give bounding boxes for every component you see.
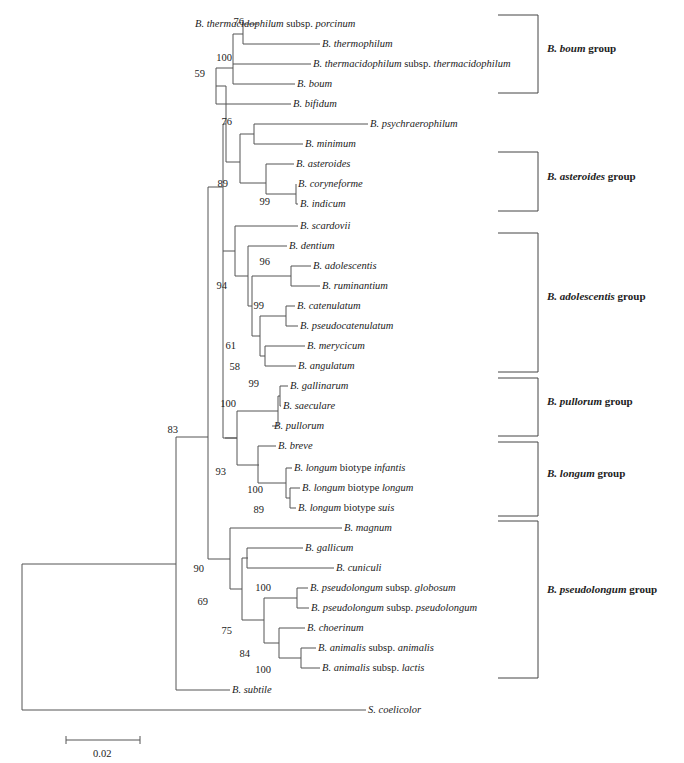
leaf-label-adolescentis: B. adolescentis — [313, 260, 377, 272]
leaf-label-coelicolor: S. coelicolor — [368, 704, 421, 716]
leaf-label-subtile: B. subtile — [232, 684, 272, 696]
bootstrap-value: 100 — [212, 398, 236, 410]
bootstrap-value: 59 — [181, 68, 205, 80]
leaf-label-boum: B. boum — [297, 78, 332, 90]
leaf-label-scardovii: B. scardovii — [300, 220, 350, 232]
bootstrap-value: 90 — [180, 563, 204, 575]
leaf-label-cuniculi: B. cuniculi — [336, 562, 382, 574]
leaf-label-coryneforme: B. coryneforme — [298, 178, 363, 190]
leaf-label-minimum: B. minimum — [305, 138, 356, 150]
scale-bar-label: 0.02 — [93, 748, 111, 759]
bootstrap-value: 76 — [208, 116, 232, 128]
bootstrap-value: 75 — [208, 625, 232, 637]
leaf-label-asteroides: B. asteroides — [296, 158, 350, 170]
leaf-label-pseudolongum: B. pseudolongum subsp. pseudolongum — [311, 602, 477, 614]
leaf-label-lactis: B. animalis subsp. lactis — [322, 662, 424, 674]
leaf-label-gallinarum: B. gallinarum — [290, 380, 348, 392]
bootstrap-value: 83 — [154, 424, 178, 436]
leaf-label-choerinum: B. choerinum — [307, 622, 364, 634]
leaf-label-breve: B. breve — [278, 440, 313, 452]
leaf-label-ruminantium: B. ruminantium — [322, 280, 388, 292]
leaf-label-thermacidophilum: B. thermacidophilum subsp. thermacidophi… — [313, 58, 510, 70]
bootstrap-value: 61 — [212, 340, 236, 352]
bootstrap-value: 100 — [247, 582, 271, 594]
bootstrap-value: 96 — [246, 256, 270, 268]
bootstrap-value: 100 — [208, 52, 232, 64]
leaf-label-saeculare: B. saeculare — [283, 400, 335, 412]
bootstrap-value: 94 — [203, 280, 227, 292]
leaf-label-pseudocatenulatum: B. pseudocatenulatum — [300, 320, 393, 332]
bootstrap-value: 89 — [204, 178, 228, 190]
group-label: B. longum group — [547, 467, 625, 479]
bootstrap-value: 89 — [240, 504, 264, 516]
leaf-label-longum-longum: B. longum biotype longum — [302, 482, 413, 494]
leaf-label-animalis: B. animalis subsp. animalis — [318, 642, 434, 654]
leaf-label-catenulatum: B. catenulatum — [297, 300, 361, 312]
bootstrap-value: 69 — [184, 596, 208, 608]
bootstrap-value: 99 — [240, 300, 264, 312]
group-label: B. asteroides group — [547, 170, 636, 182]
bootstrap-value: 100 — [239, 484, 263, 496]
leaf-label-psychraerophilum: B. psychraerophilum — [370, 118, 458, 130]
group-label: B. boum group — [547, 42, 616, 54]
leaf-label-indicum: B. indicum — [300, 198, 346, 210]
group-label: B. pseudolongum group — [547, 583, 657, 595]
leaf-label-pullorum: B. pullorum — [274, 420, 324, 432]
leaf-label-longum-suis: B. longum biotype suis — [298, 502, 394, 514]
group-label: B. adolescentis group — [547, 290, 646, 302]
bootstrap-value: 76 — [220, 16, 244, 28]
group-brackets — [498, 15, 538, 678]
bootstrap-value: 93 — [202, 466, 226, 478]
leaf-label-merycicum: B. merycicum — [307, 340, 365, 352]
group-label: B. pullorum group — [547, 395, 633, 407]
leaf-label-magnum: B. magnum — [344, 522, 392, 534]
bootstrap-value: 100 — [247, 664, 271, 676]
leaf-label-longum-infantis: B. longum biotype infantis — [294, 462, 405, 474]
bootstrap-value: 99 — [246, 196, 270, 208]
leaf-label-angulatum: B. angulatum — [298, 360, 355, 372]
leaf-label-gallicum: B. gallicum — [305, 542, 353, 554]
leaf-label-globosum: B. pseudolongum subsp. globosum — [310, 582, 456, 594]
leaf-label-bifidum: B. bifidum — [293, 98, 337, 110]
bootstrap-value: 99 — [235, 378, 259, 390]
leaf-label-dentium: B. dentium — [289, 240, 335, 252]
leaf-label-thermophilum: B. thermophilum — [322, 38, 393, 50]
bootstrap-value: 58 — [216, 361, 240, 373]
bootstrap-value: 84 — [226, 648, 250, 660]
